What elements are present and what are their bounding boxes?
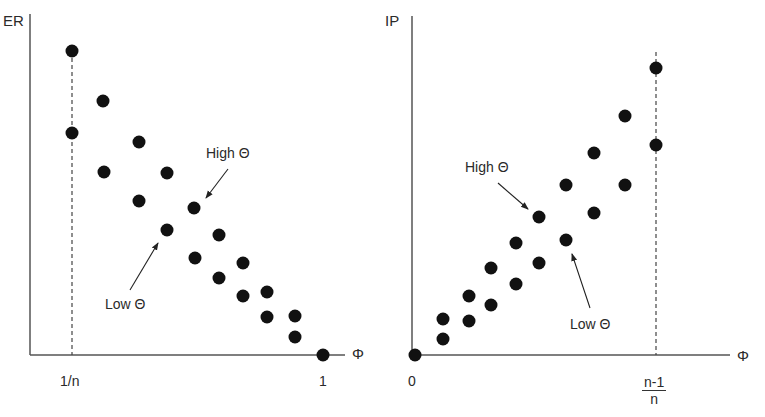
right-low-theta-label: Low Θ [570,316,610,332]
right-low-arrow [572,254,590,308]
left-y-axis-label: ER [3,12,24,29]
left-low-arrow [130,243,158,290]
fraction-denominator: n [650,391,658,407]
left-chart [30,14,345,362]
right-points [409,62,663,362]
left-tick-1: 1 [319,373,327,389]
fraction-numerator: n-1 [642,374,666,391]
left-high-arrow [206,169,228,198]
right-tick-n-minus-1-over-n: n-1 n [642,374,666,407]
left-x-axis-label: Φ [352,345,364,362]
right-chart [409,16,731,362]
charts-canvas [0,0,765,417]
right-high-arrow [498,183,528,209]
right-y-axis-label: IP [385,12,399,29]
right-x-axis-label: Φ [737,347,749,364]
right-high-theta-label: High Θ [465,159,509,175]
left-low-theta-label: Low Θ [105,296,145,312]
right-tick-0: 0 [408,373,416,389]
left-points [66,45,330,362]
left-tick-1-over-n: 1/n [60,373,79,389]
left-high-theta-label: High Θ [206,145,250,161]
